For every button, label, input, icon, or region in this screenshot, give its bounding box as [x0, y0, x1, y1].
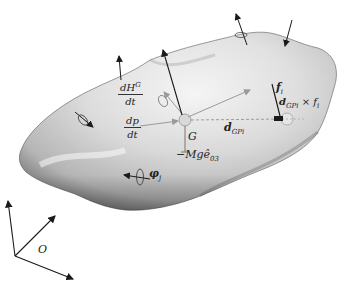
fi-sub: i	[281, 88, 283, 96]
torque-label: dGPi × fi	[279, 97, 319, 110]
dh-dt-label: dHG dt	[118, 81, 143, 107]
torque-rest: × f	[299, 96, 317, 107]
phi-text: φ	[149, 167, 159, 180]
d-gpi-sub: GPi	[232, 128, 245, 136]
torque-d: d	[279, 96, 286, 107]
dhg-num: dH	[120, 82, 135, 93]
dhg-sup: G	[135, 81, 141, 89]
d-gpi-label: dGPi	[224, 122, 244, 136]
dp-dt-label: dp dt	[124, 115, 141, 140]
dp-den: dt	[124, 128, 141, 140]
diagram: dHG dt dp dt G −Mgê03 dGPi fi dGPi × fi …	[0, 0, 346, 289]
torque-rest-sub: i	[317, 102, 319, 110]
torque-sub: GPi	[286, 102, 299, 110]
d-gpi-text: d	[224, 121, 232, 134]
phi-sub: j	[159, 174, 161, 182]
dp-num: dp	[124, 115, 141, 128]
dhg-den: dt	[118, 95, 143, 107]
origin-label: O	[38, 244, 47, 255]
gravity-sub: 03	[210, 155, 219, 163]
fi-label: fi	[276, 82, 283, 96]
g-label: G	[188, 131, 197, 142]
phi-j-label: φj	[149, 168, 161, 182]
gravity-text: −Mgê	[176, 148, 210, 161]
origin-frame	[8, 201, 73, 279]
gravity-label: −Mgê03	[176, 149, 219, 163]
diagram-canvas	[0, 0, 346, 289]
center-of-mass-point	[179, 114, 191, 126]
